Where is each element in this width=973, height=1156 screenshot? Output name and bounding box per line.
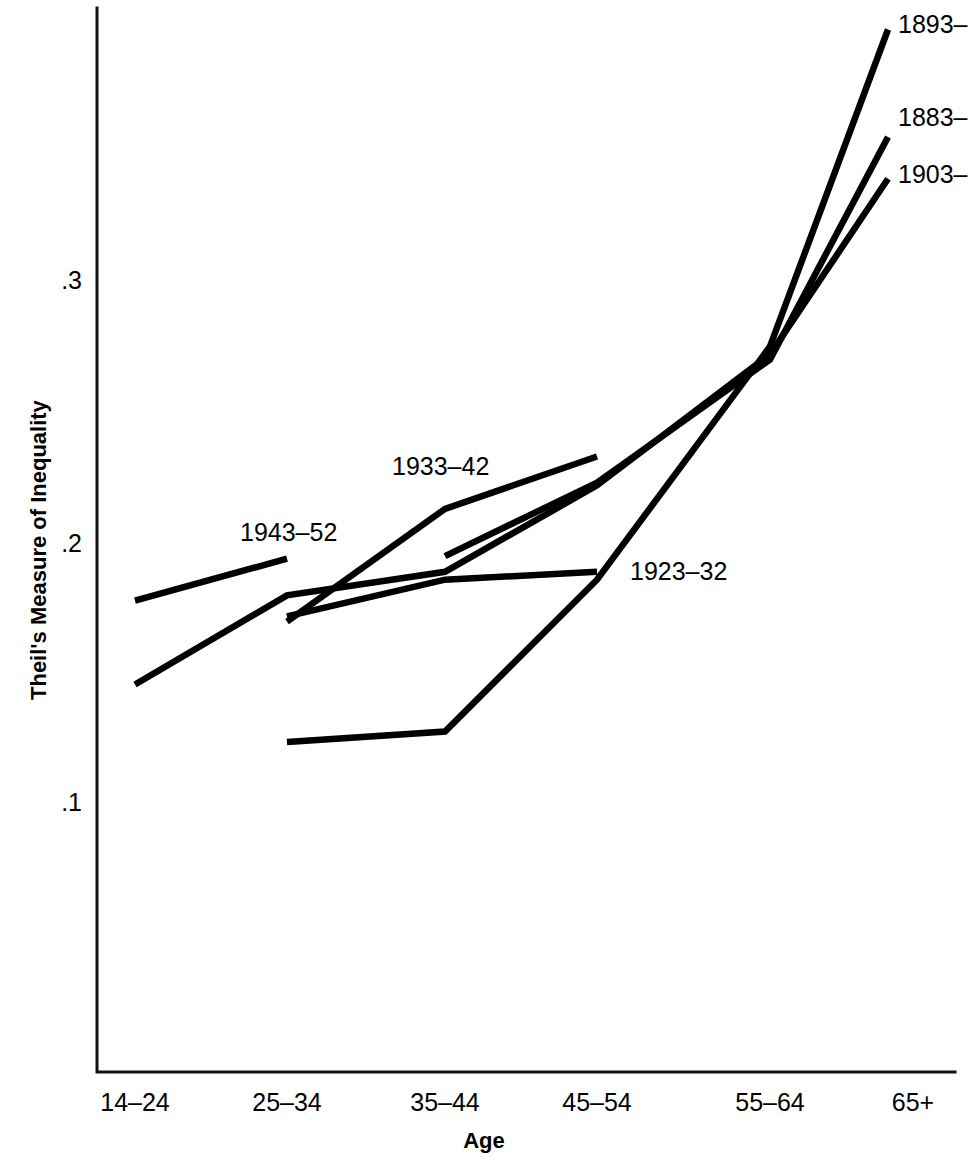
series-label-1923-32: 1923–32 <box>630 557 727 586</box>
series-label-1893: 1893– <box>898 10 968 39</box>
x-tick-label-65plus: 65+ <box>853 1088 973 1117</box>
series-label-1943-52: 1943–52 <box>240 518 337 547</box>
y-tick-label-0.2: .2 <box>48 529 82 558</box>
series-line-192332 <box>287 572 597 617</box>
series-label-1933-42: 1933–42 <box>392 452 489 481</box>
series-line-1893 <box>287 30 888 743</box>
series-label-1903: 1903– <box>898 160 968 189</box>
x-axis-title: Age <box>0 1128 968 1154</box>
y-tick-label-0.1: .1 <box>48 788 82 817</box>
series-lines <box>135 30 888 743</box>
x-tick-label-45-54: 45–54 <box>537 1088 657 1117</box>
series-line-194352 <box>135 559 287 601</box>
y-axis-title: Theil's Measure of Inequality <box>26 400 52 700</box>
y-tick-label-0.3: .3 <box>48 266 82 295</box>
x-tick-label-55-64: 55–64 <box>710 1088 830 1117</box>
series-line-1903 <box>135 179 888 685</box>
x-tick-label-14-24: 14–24 <box>75 1088 195 1117</box>
x-tick-label-35-44: 35–44 <box>385 1088 505 1117</box>
axis-lines <box>97 8 955 1072</box>
series-label-1883: 1883– <box>898 103 968 132</box>
x-tick-label-25-34: 25–34 <box>227 1088 347 1117</box>
